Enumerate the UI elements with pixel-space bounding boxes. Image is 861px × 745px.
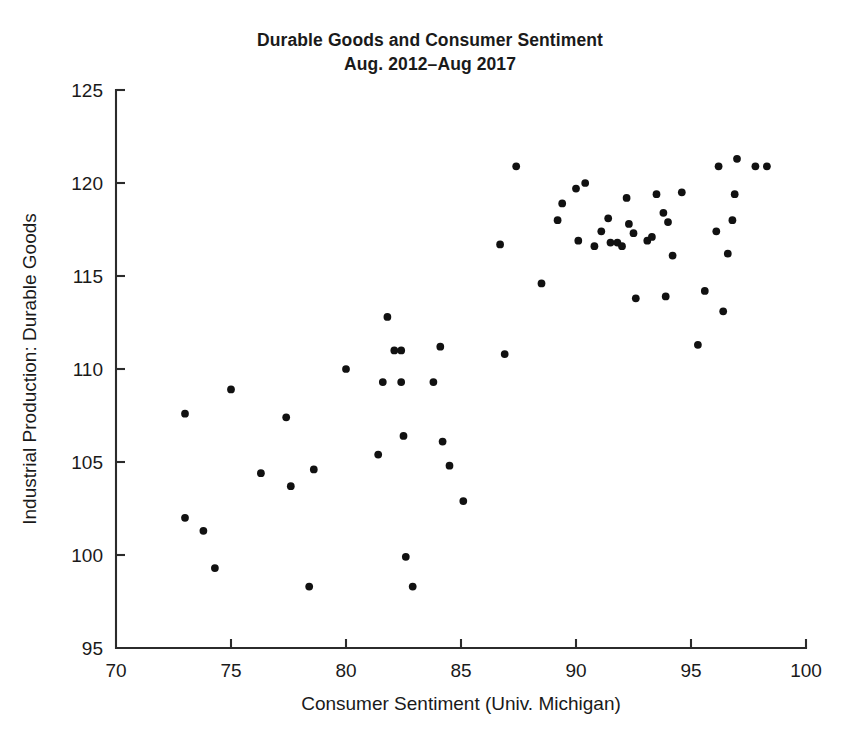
data-point <box>630 229 638 237</box>
data-point <box>501 350 509 358</box>
data-point <box>574 237 582 245</box>
data-point <box>211 564 219 572</box>
data-point <box>402 553 410 561</box>
data-point <box>729 216 737 224</box>
y-axis-label: Industrial Production: Durable Goods <box>19 213 40 525</box>
data-point <box>694 341 702 349</box>
data-point <box>715 162 723 170</box>
data-point <box>496 241 504 249</box>
data-point <box>305 583 313 591</box>
data-point <box>409 583 417 591</box>
data-point <box>733 155 741 163</box>
data-point <box>310 466 318 474</box>
axis-frame <box>116 90 806 648</box>
data-point-group <box>181 155 771 591</box>
data-point <box>181 410 189 418</box>
data-point <box>604 214 612 222</box>
x-tick-label: 80 <box>335 660 356 681</box>
data-point <box>662 293 670 301</box>
data-point <box>227 386 235 394</box>
data-point <box>664 218 672 226</box>
y-tick-label: 110 <box>73 359 103 380</box>
data-point <box>554 216 562 224</box>
chart-figure: Durable Goods and Consumer Sentiment Aug… <box>0 0 861 745</box>
data-point <box>512 162 520 170</box>
x-tick-label: 75 <box>220 660 241 681</box>
y-tick-label: 120 <box>71 173 103 194</box>
data-point <box>287 482 295 490</box>
data-point <box>648 233 656 241</box>
y-tick-label: 95 <box>82 638 103 659</box>
data-point <box>379 378 387 386</box>
data-point <box>597 227 605 235</box>
data-point <box>446 462 454 470</box>
data-point <box>724 250 732 258</box>
data-point <box>538 280 546 288</box>
data-point <box>459 497 467 505</box>
x-tick-label: 95 <box>680 660 701 681</box>
x-axis-label: Consumer Sentiment (Univ. Michigan) <box>301 693 621 714</box>
data-point <box>397 347 405 355</box>
data-point <box>660 209 668 217</box>
data-point <box>257 469 265 477</box>
y-tick-label: 105 <box>71 452 103 473</box>
x-tick-label: 100 <box>790 660 822 681</box>
data-point <box>400 432 408 440</box>
data-point <box>669 252 677 260</box>
data-point <box>439 438 447 446</box>
data-point <box>607 239 615 247</box>
data-point <box>623 194 631 202</box>
data-point <box>731 190 739 198</box>
y-tick-label: 115 <box>73 266 103 287</box>
data-point <box>390 347 398 355</box>
x-axis-ticks: 707580859095100 <box>105 639 821 681</box>
data-point <box>701 287 709 295</box>
data-point <box>591 242 599 250</box>
data-point <box>653 190 661 198</box>
data-point <box>181 514 189 522</box>
data-point <box>436 343 444 351</box>
data-point <box>282 413 290 421</box>
data-point <box>752 162 760 170</box>
data-point <box>430 378 438 386</box>
data-point <box>763 162 771 170</box>
chart-subtitle: Aug. 2012–Aug 2017 <box>344 54 516 74</box>
data-point <box>200 527 208 535</box>
data-point <box>384 313 392 321</box>
y-tick-label: 100 <box>71 545 103 566</box>
scatter-plot: Durable Goods and Consumer Sentiment Aug… <box>0 0 861 745</box>
data-point <box>625 220 633 228</box>
x-tick-label: 90 <box>565 660 586 681</box>
chart-title: Durable Goods and Consumer Sentiment <box>257 30 603 50</box>
data-point <box>678 188 686 196</box>
x-tick-label: 85 <box>450 660 471 681</box>
y-tick-label: 125 <box>71 80 103 101</box>
data-point <box>342 365 350 373</box>
data-point <box>397 378 405 386</box>
data-point <box>712 227 720 235</box>
data-point <box>374 451 382 459</box>
data-point <box>558 200 566 208</box>
x-tick-label: 70 <box>105 660 126 681</box>
data-point <box>632 294 640 302</box>
data-point <box>719 307 727 315</box>
data-point <box>572 185 580 193</box>
data-point <box>581 179 589 187</box>
data-point <box>618 242 626 250</box>
